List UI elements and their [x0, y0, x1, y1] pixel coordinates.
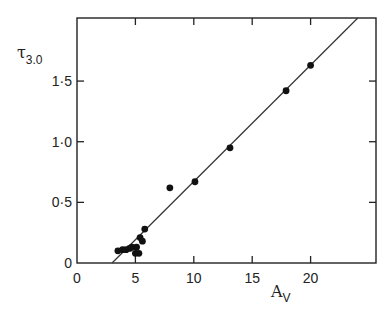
x-axis-label-subscript: V — [283, 291, 291, 305]
data-point — [283, 87, 290, 94]
y-axis-label-subscript: 3.0 — [26, 53, 43, 67]
data-point — [192, 178, 199, 185]
fit-line-group — [112, 18, 358, 263]
data-point — [139, 238, 146, 245]
x-tick-label: 15 — [244, 270, 260, 286]
data-point — [227, 144, 234, 151]
fit-line — [112, 18, 358, 263]
x-axis-ticks: 05101520 — [73, 18, 318, 286]
data-point — [307, 62, 314, 69]
y-tick-label: 0·5 — [52, 194, 72, 210]
y-tick-label: 1·5 — [52, 73, 72, 89]
x-axis-label: AV — [270, 282, 291, 305]
x-axis-label-main: A — [270, 282, 283, 301]
y-axis-ticks: 00·51·01·5 — [52, 73, 376, 271]
y-axis-label: τ3.0 — [17, 43, 43, 67]
x-tick-label: 0 — [73, 270, 81, 286]
data-point — [141, 226, 148, 233]
x-tick-label: 20 — [303, 270, 319, 286]
plot-frame — [77, 18, 376, 263]
y-tick-label: 0 — [64, 255, 72, 271]
data-point — [136, 250, 143, 257]
data-point — [133, 244, 140, 251]
x-tick-label: 10 — [186, 270, 202, 286]
x-tick-label: 5 — [132, 270, 140, 286]
y-tick-label: 1·0 — [52, 134, 72, 150]
y-axis-label-main: τ — [17, 43, 26, 62]
data-point — [166, 184, 173, 191]
data-points — [114, 62, 314, 257]
chart: 05101520 00·51·01·5 τ3.0 AV — [0, 0, 392, 317]
